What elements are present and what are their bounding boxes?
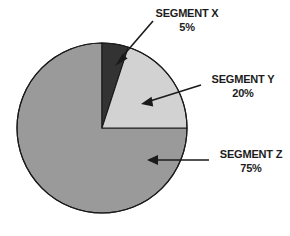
pie-chart-canvas: SEGMENT X 5% SEGMENT Y 20% SEGMENT Z 75% (0, 0, 290, 236)
callout-label-segment-x: SEGMENT X (156, 7, 220, 19)
callout-value-segment-z: 75% (240, 162, 262, 174)
callout-label-segment-z: SEGMENT Z (220, 148, 283, 160)
callout-value-segment-y: 20% (232, 87, 254, 99)
callout-label-segment-y: SEGMENT Y (212, 73, 276, 85)
pie-chart-figure: SEGMENT X 5% SEGMENT Y 20% SEGMENT Z 75% (0, 0, 290, 236)
callout-value-segment-x: 5% (179, 21, 195, 33)
